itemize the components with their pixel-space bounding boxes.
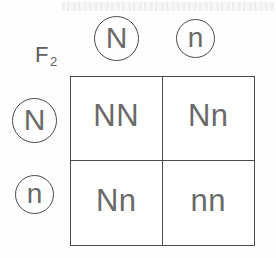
- column-header-allele-1-label: n: [188, 24, 204, 52]
- row-header-allele-0-label: N: [24, 105, 46, 135]
- punnett-cell-genotype: nn: [191, 185, 226, 216]
- punnett-cell: Nn: [71, 161, 163, 245]
- punnett-square-diagram: F2 N n N n NN Nn Nn nn: [0, 0, 276, 258]
- column-header-allele-0-label: N: [106, 23, 128, 53]
- punnett-cell-genotype: Nn: [188, 100, 229, 131]
- column-header-allele-0: N: [94, 16, 139, 61]
- column-header-allele-1: n: [176, 19, 215, 58]
- generation-label: F2: [35, 44, 57, 66]
- generation-label-subscript: 2: [50, 54, 58, 69]
- row-header-allele-0: N: [12, 98, 57, 143]
- scan-artifact-top: [62, 2, 274, 11]
- generation-label-text: F: [35, 42, 49, 67]
- punnett-cell: NN: [71, 77, 163, 161]
- punnett-cell: Nn: [163, 77, 255, 161]
- punnett-cell-genotype: Nn: [96, 185, 137, 216]
- punnett-cell: nn: [163, 161, 255, 245]
- punnett-grid: NN Nn Nn nn: [70, 76, 255, 246]
- row-header-allele-1: n: [15, 175, 54, 214]
- row-header-allele-1-label: n: [27, 180, 43, 208]
- punnett-cell-genotype: NN: [93, 100, 139, 131]
